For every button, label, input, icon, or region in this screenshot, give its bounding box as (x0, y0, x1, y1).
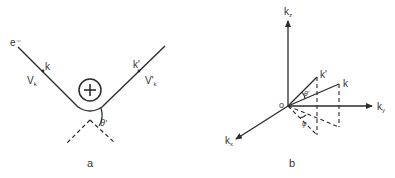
origin-label: o (279, 100, 284, 110)
asymptote-dashed-left (67, 120, 90, 143)
theta-label: θ' (304, 90, 310, 97)
figure-canvas: e⁻ k Vk k' V'k θ' a kz ky kx o k' k θ' φ… (0, 0, 395, 178)
electron-label: e⁻ (10, 37, 21, 48)
k-prime-label: k' (133, 59, 140, 70)
k-projection (288, 106, 339, 127)
k-point-outgoing (138, 70, 141, 73)
v-prime-label: V'k (145, 75, 158, 87)
kz-label: kz (284, 6, 292, 18)
phi-label: φ (302, 120, 307, 128)
panel-a-caption: a (87, 157, 94, 169)
panel-b: kz ky kx o k' k θ' φ b (225, 6, 385, 169)
theta-label: θ' (100, 118, 107, 128)
vector-k (288, 84, 339, 106)
kx-axis (236, 106, 288, 139)
positive-ion-icon (79, 79, 101, 101)
k-label: k (343, 78, 349, 89)
v-label: Vk (27, 75, 38, 87)
k-label: k (45, 61, 51, 72)
kx-label: kx (225, 135, 233, 147)
ky-label: ky (377, 101, 385, 113)
k-point-incoming (42, 70, 45, 73)
phi-angle-arc (300, 115, 306, 118)
panel-a: e⁻ k Vk k' V'k θ' a (10, 37, 165, 169)
k-prime-label: k' (320, 69, 327, 80)
vector-k-prime (288, 77, 317, 106)
panel-b-caption: b (289, 157, 295, 169)
